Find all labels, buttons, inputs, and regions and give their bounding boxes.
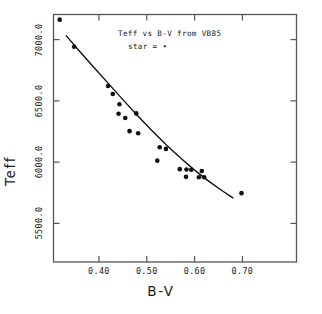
data-point [202, 175, 207, 180]
y-axis-title: Teff [2, 156, 18, 186]
data-point [239, 191, 244, 196]
y-tick-label: 7000.0 [34, 23, 44, 56]
chart-title: Teff vs B-V from VB85 [118, 29, 221, 38]
y-tick-label: 5500.0 [34, 207, 44, 240]
data-point [116, 111, 121, 116]
fit-curve-path [66, 35, 233, 198]
data-point [189, 167, 194, 172]
x-tick-label: 0.60 [184, 266, 206, 276]
figure-container: Teff vs B-V from VB85 star = • 0.400.500… [0, 0, 322, 314]
data-point [117, 102, 122, 107]
axes-frame [54, 15, 297, 263]
data-point [123, 116, 128, 121]
data-point [199, 169, 204, 174]
data-point [184, 167, 189, 172]
data-point [57, 17, 62, 22]
x-tick-label: 0.40 [88, 266, 110, 276]
x-axis-title: B-V [0, 283, 322, 299]
y-tick-label: 6500.0 [34, 85, 44, 118]
tick-marks [54, 15, 297, 263]
fit-curve [66, 35, 233, 198]
data-point [106, 84, 111, 89]
data-point [136, 131, 141, 136]
data-point [157, 145, 162, 150]
x-tick-label: 0.50 [136, 266, 158, 276]
data-point [134, 111, 139, 116]
data-point [197, 175, 202, 180]
data-point [164, 147, 169, 152]
y-tick-label: 6000.0 [34, 146, 44, 179]
data-point [127, 129, 132, 134]
plot-border [54, 15, 297, 263]
data-point [184, 175, 189, 180]
x-tick-label: 0.70 [232, 266, 254, 276]
data-point [72, 44, 77, 49]
data-point [155, 158, 160, 163]
legend-annotation: star = • [128, 42, 167, 51]
data-point [177, 167, 182, 172]
data-point [111, 92, 116, 97]
